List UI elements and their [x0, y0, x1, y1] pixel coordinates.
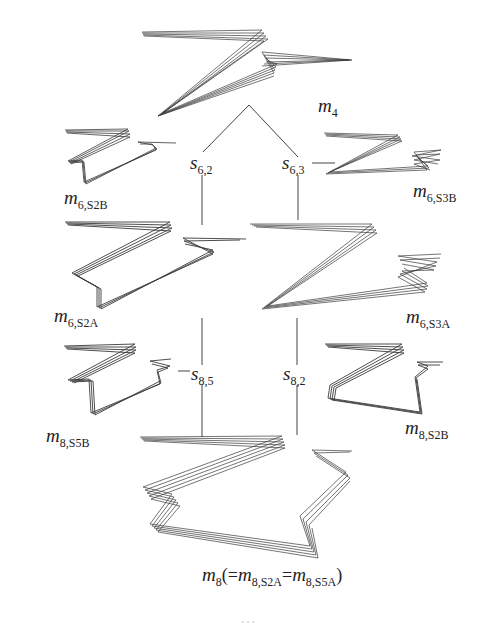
label-s8-2: s8,2 — [283, 364, 305, 387]
molecule-m6-S2B — [65, 129, 176, 184]
label-m8-S2B-sub: 8,S2B — [419, 428, 449, 442]
label-s8-5: s8,5 — [191, 364, 213, 387]
label-s6-2: s6,2 — [190, 153, 212, 176]
edge-m4-s63 — [249, 105, 298, 157]
label-m6-S3B-sub: 6,S3B — [427, 191, 457, 205]
cut-off-caption: ... — [0, 605, 497, 623]
label-m6-S2A-sub: 6,S2A — [68, 316, 98, 330]
label-m8-eq-m1: m — [238, 564, 252, 585]
label-m6-S3A: m6,S3A — [406, 307, 450, 330]
label-m8-eq-sub1: 8,S2A — [252, 575, 282, 589]
label-m6-S3B: m6,S3B — [413, 181, 456, 204]
label-m8-base: m — [202, 564, 216, 585]
label-m8-paren-close: ) — [336, 565, 342, 585]
label-m8-S5B-sub: 8,S5B — [60, 436, 90, 450]
label-s6-3: s6,3 — [282, 153, 304, 176]
label-m6-S3B-base: m — [413, 180, 427, 201]
label-m4-base: m — [318, 95, 332, 116]
label-m6-S3A-base: m — [406, 306, 420, 327]
label-s6-3-sub: 6,3 — [289, 163, 304, 177]
label-m6-S2B: m6,S2B — [64, 188, 107, 211]
label-m8-S2B: m8,S2B — [405, 418, 448, 441]
molecule-m8 — [140, 436, 352, 558]
label-m6-S2A-base: m — [54, 305, 68, 326]
label-s6-2-sub: 6,2 — [197, 163, 212, 177]
label-m8-paren-open: (= — [222, 565, 238, 585]
label-m8-eq-sub2: 8,S5A — [306, 575, 336, 589]
label-m8-S5B-base: m — [46, 425, 60, 446]
caption-text: ... — [0, 611, 497, 623]
label-m8-S2B-base: m — [405, 417, 419, 438]
molecule-m6-S2A — [65, 222, 246, 309]
label-m6-S2B-base: m — [64, 187, 78, 208]
molecule-m6-S3A — [250, 224, 441, 309]
molecule-m6-S3B — [324, 133, 441, 174]
label-m8-eq-m2: m — [292, 564, 306, 585]
label-s8-5-sub: 8,5 — [198, 374, 213, 388]
molecule-m8-S2B — [325, 344, 443, 414]
edge-m4-s62 — [203, 105, 249, 152]
label-s8-2-sub: 8,2 — [290, 374, 305, 388]
label-m8-S5B: m8,S5B — [46, 426, 89, 449]
label-m8: m8(=m8,S2A=m8,S5A) — [202, 565, 342, 588]
molecule-m8-S5B — [64, 344, 171, 415]
label-m6-S2A: m6,S2A — [54, 306, 98, 329]
label-m4-sub: 4 — [332, 106, 338, 120]
label-m4: m4 — [318, 96, 338, 119]
label-m6-S3A-sub: 6,S3A — [420, 317, 450, 331]
label-m6-S2B-sub: 6,S2B — [78, 198, 108, 212]
label-m8-eq-sign: = — [282, 565, 292, 585]
